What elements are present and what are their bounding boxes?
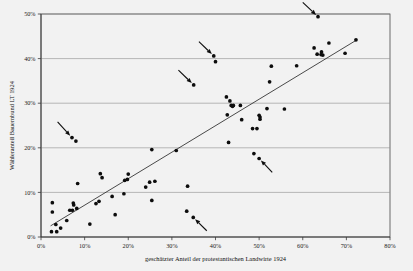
data-point <box>153 179 157 183</box>
data-point <box>185 209 189 213</box>
data-point <box>251 127 255 131</box>
data-point <box>113 213 117 217</box>
y-tick-label: 20% <box>24 144 35 151</box>
data-point <box>50 230 54 234</box>
y-tick-label: 0% <box>27 233 35 240</box>
data-point <box>74 139 78 143</box>
data-point <box>126 178 130 182</box>
x-tick-label: 0% <box>37 242 45 249</box>
data-point <box>343 51 347 55</box>
data-point <box>50 201 54 205</box>
data-point <box>258 117 262 121</box>
data-point <box>315 52 319 56</box>
scatter-plot-figure: 0%10%20%30%40%50%60%70%80%0%10%20%30%40%… <box>0 0 413 271</box>
data-point <box>100 176 104 180</box>
y-tick-label: 30% <box>24 99 35 106</box>
data-point <box>327 41 331 45</box>
data-point <box>227 141 231 145</box>
data-point <box>88 222 92 226</box>
x-tick-label: 70% <box>341 242 352 249</box>
x-tick-label: 50% <box>253 242 264 249</box>
data-point <box>295 64 299 68</box>
data-point <box>59 226 63 230</box>
data-point <box>148 180 152 184</box>
y-tick-label: 40% <box>24 55 35 62</box>
data-point <box>321 53 325 57</box>
data-point <box>54 223 58 227</box>
x-tick-label: 80% <box>384 242 395 249</box>
x-tick-label: 40% <box>210 242 221 249</box>
data-point <box>150 148 154 152</box>
data-point <box>214 60 218 64</box>
y-tick-label: 50% <box>24 10 35 17</box>
data-point <box>76 182 80 186</box>
x-tick-label: 10% <box>79 242 90 249</box>
plot-canvas: 0%10%20%30%40%50%60%70%80%0%10%20%30%40%… <box>0 0 413 271</box>
data-point <box>75 207 79 211</box>
x-tick-label: 30% <box>166 242 177 249</box>
data-point <box>225 113 229 117</box>
data-point <box>71 208 75 212</box>
data-point <box>239 104 243 108</box>
data-point <box>268 80 272 84</box>
data-point <box>232 104 236 108</box>
data-point <box>212 54 216 58</box>
data-point <box>252 152 256 156</box>
data-point <box>110 195 114 199</box>
data-point <box>228 99 232 103</box>
data-point <box>150 199 154 203</box>
data-point <box>94 202 98 206</box>
data-point <box>225 95 229 99</box>
data-point <box>122 192 126 196</box>
data-point <box>50 210 54 214</box>
data-point <box>126 172 130 176</box>
data-point <box>98 172 102 176</box>
data-point <box>265 107 269 111</box>
data-point <box>191 216 195 220</box>
data-point <box>174 149 178 153</box>
y-axis-title: Wähleranteil Bauernbund LT 1924 <box>8 80 15 170</box>
x-tick-label: 20% <box>123 242 134 249</box>
data-point <box>70 136 74 140</box>
data-point <box>240 118 244 122</box>
data-point <box>186 184 190 188</box>
data-point <box>72 203 76 207</box>
data-point <box>269 64 273 68</box>
data-point <box>55 230 59 234</box>
y-tick-label: 10% <box>24 189 35 196</box>
data-point <box>312 46 316 50</box>
arrow-shaft <box>303 2 313 11</box>
data-point <box>97 199 101 203</box>
data-point <box>354 38 358 42</box>
data-point <box>316 15 320 19</box>
arrow-to-point-4 <box>303 2 316 14</box>
x-axis-title: geschätzter Anteil der protestantischen … <box>145 255 287 262</box>
data-point <box>144 185 148 189</box>
data-point <box>283 107 287 111</box>
data-point <box>257 157 261 161</box>
x-tick-label: 60% <box>297 242 308 249</box>
data-point <box>255 127 259 131</box>
data-point <box>65 219 69 223</box>
data-point <box>192 83 196 87</box>
